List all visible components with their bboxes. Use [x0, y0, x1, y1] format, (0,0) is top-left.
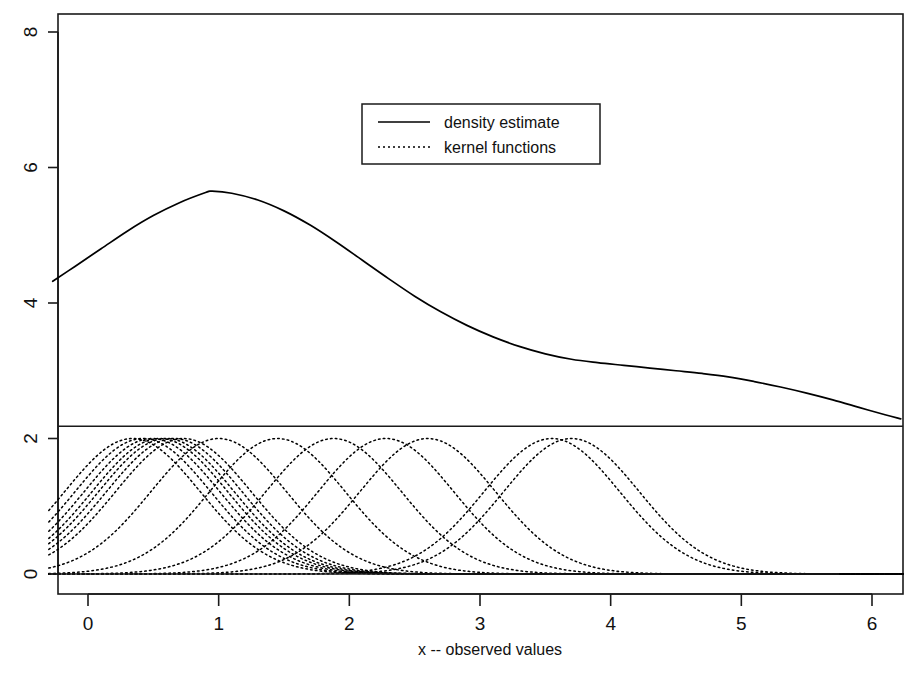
density-estimate-plot: 02468 0123456 x -- observed values densi… [0, 0, 924, 689]
y-tick-label-3: 6 [20, 162, 41, 173]
y-tick-label-1: 2 [20, 433, 41, 444]
legend: density estimate kernel functions [362, 104, 600, 164]
x-tick-label-6: 6 [867, 613, 878, 634]
y-tick-label-2: 4 [20, 297, 41, 308]
x-tick-label-4: 4 [605, 613, 616, 634]
x-tick-label-5: 5 [736, 613, 747, 634]
x-axis-title: x -- observed values [418, 641, 562, 658]
y-tick-label-0: 0 [20, 569, 41, 580]
figure-container: 02468 0123456 x -- observed values densi… [0, 0, 924, 689]
x-tick-label-1: 1 [213, 613, 224, 634]
x-tick-label-0: 0 [83, 613, 94, 634]
legend-label-kernel-functions: kernel functions [444, 139, 556, 156]
y-tick-label-4: 8 [20, 27, 41, 38]
x-tick-label-3: 3 [475, 613, 486, 634]
legend-label-density-estimate: density estimate [444, 114, 560, 131]
x-tick-label-2: 2 [344, 613, 355, 634]
